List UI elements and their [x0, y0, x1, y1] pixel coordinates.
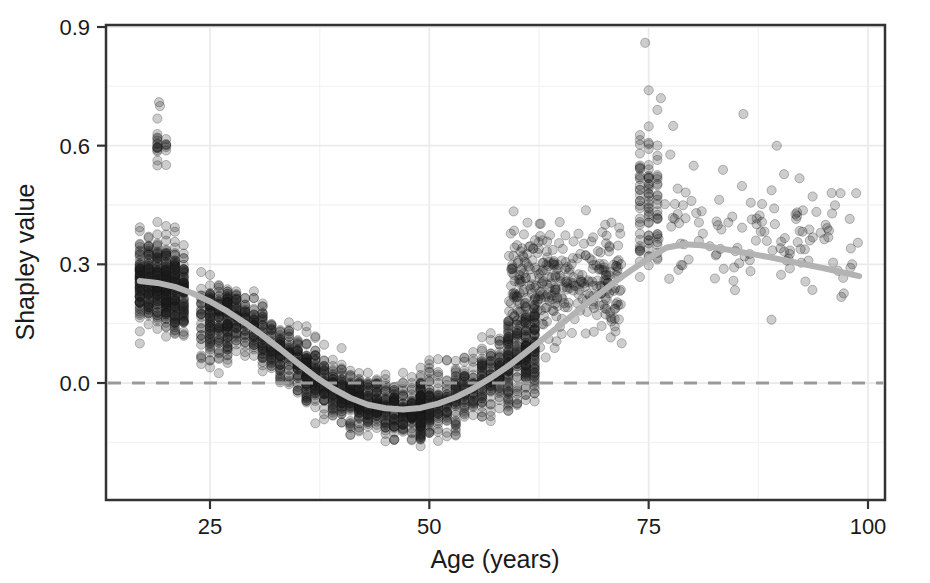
x-tick-label: 75 [636, 514, 660, 539]
x-tick-label: 100 [850, 514, 887, 539]
shapley-vs-age-scatter-plot: 2550751000.00.30.60.9 Age (years) Shaple… [0, 0, 930, 583]
y-tick-label: 0.9 [59, 15, 90, 40]
y-tick-label: 0.3 [59, 252, 90, 277]
chart-figure: 2550751000.00.30.60.9 Age (years) Shaple… [0, 0, 930, 583]
x-tick-label: 25 [198, 514, 222, 539]
x-tick-label: 50 [417, 514, 441, 539]
y-axis-title: Shapley value [11, 183, 39, 340]
x-axis-title: Age (years) [430, 545, 559, 573]
y-tick-label: 0.6 [59, 134, 90, 159]
y-tick-label: 0.0 [59, 371, 90, 396]
